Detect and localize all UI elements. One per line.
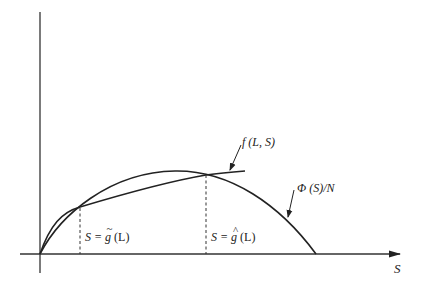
phi-curve-label: Φ (S)/N (297, 181, 335, 195)
g-hat-label: S = g (L) ^ (211, 224, 255, 244)
phi-curve (40, 171, 316, 254)
diagram-svg: S S = g (L) ~ S = g (L) ^ f (L, S) Φ (S)… (0, 0, 423, 289)
hat-accent: ^ (233, 224, 239, 236)
phi-curve-callout-arrow (288, 190, 294, 217)
g-tilde-label: S = g (L) ~ (85, 222, 129, 244)
x-axis-label: S (394, 261, 401, 276)
f-curve-callout-arrow (230, 145, 241, 170)
diagram-canvas: S S = g (L) ~ S = g (L) ^ f (L, S) Φ (S)… (0, 0, 423, 289)
f-curve-label: f (L, S) (242, 135, 275, 149)
tilde-accent: ~ (107, 222, 113, 234)
